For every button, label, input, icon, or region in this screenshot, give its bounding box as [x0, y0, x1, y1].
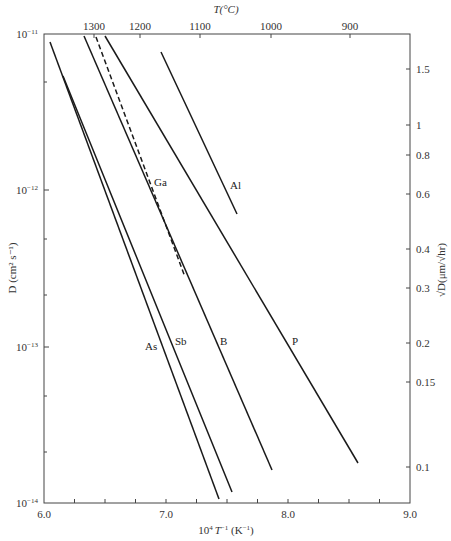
series-lines: [50, 36, 358, 499]
series-b-line: [84, 36, 272, 470]
series-label-sb: Sb: [175, 335, 187, 347]
series-label-b: B: [220, 335, 227, 347]
bottom-axis-ticks: 6.0 7.0 8.0 9.0: [37, 499, 417, 520]
right-tick-0.3: 0.3: [416, 282, 430, 294]
right-tick-0.1: 0.1: [416, 461, 430, 473]
right-tick-1: 1: [416, 119, 422, 131]
diffusion-chart: T(°C) 1300 1200 1100 1000 900 6.0 7.0 8.…: [0, 0, 451, 541]
x-tick-7: 7.0: [159, 508, 173, 520]
series-label-ga: Ga: [154, 176, 167, 188]
series-label-as: As: [145, 340, 157, 352]
series-label-al: Al: [230, 179, 241, 191]
right-tick-0.8: 0.8: [416, 149, 430, 161]
top-axis-ticks: 1300 1200 1100 1000 900: [83, 20, 359, 38]
y-tick-1e-13: 10−13: [16, 341, 38, 353]
right-tick-0.6: 0.6: [416, 188, 430, 200]
top-tick-1100: 1100: [189, 20, 211, 32]
series-al-line: [161, 52, 237, 214]
bottom-axis-title: 104T−1 (K−1): [198, 524, 254, 537]
y-tick-1e-14: 10−14: [16, 497, 38, 509]
plot-frame: [44, 34, 410, 503]
top-tick-1200: 1200: [129, 20, 152, 32]
series-p-line: [105, 36, 358, 463]
series-label-p: P: [292, 335, 298, 347]
right-tick-1.5: 1.5: [416, 63, 430, 75]
right-axis-title: √D(μm/√hr): [435, 243, 448, 297]
x-tick-6: 6.0: [37, 508, 51, 520]
x-tick-8: 8.0: [281, 508, 295, 520]
y-tick-1e-12: 10−12: [16, 184, 38, 196]
top-tick-1000: 1000: [260, 20, 283, 32]
x-tick-9: 9.0: [403, 508, 417, 520]
left-axis-title: D (cm² s⁻¹): [6, 242, 19, 293]
right-tick-0.4: 0.4: [416, 243, 430, 255]
series-as-line: [50, 42, 219, 499]
top-tick-900: 900: [342, 20, 359, 32]
right-tick-0.15: 0.15: [416, 376, 436, 388]
top-tick-1300: 1300: [83, 20, 106, 32]
right-tick-0.2: 0.2: [416, 337, 430, 349]
top-axis-title: T(°C): [213, 3, 239, 16]
y-tick-1e-11: 10−11: [16, 28, 38, 40]
series-sb-line: [63, 76, 232, 492]
